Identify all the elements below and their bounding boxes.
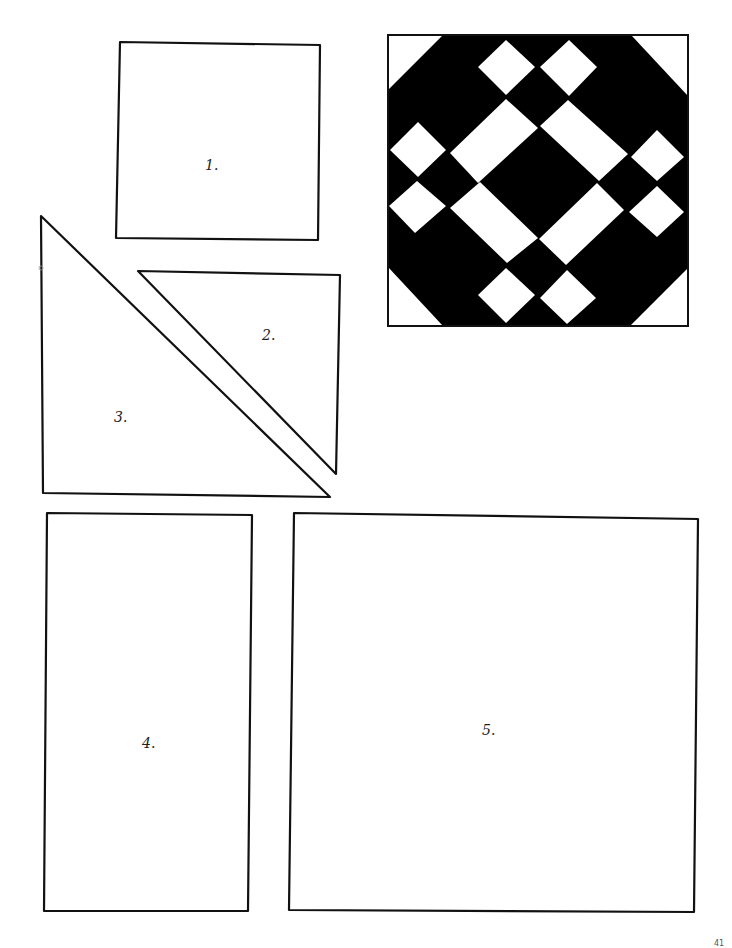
piece-2-label: 2. bbox=[261, 327, 275, 343]
page-number: 41 bbox=[714, 939, 724, 948]
piece-4-label: 4. bbox=[141, 735, 155, 751]
block-preview bbox=[388, 35, 688, 326]
piece-1-label: 1. bbox=[205, 157, 218, 173]
pattern-sheet: 1. 2. 3. 4. 5. bbox=[0, 0, 732, 948]
piece-4-rectangle: 4. bbox=[44, 513, 252, 911]
piece-3-label: 3. bbox=[114, 409, 127, 425]
piece-5-label: 5. bbox=[482, 722, 495, 738]
block-dark-field bbox=[388, 35, 688, 326]
piece-1-square: 1. bbox=[116, 42, 320, 240]
piece-5-square: 5. bbox=[289, 513, 698, 912]
